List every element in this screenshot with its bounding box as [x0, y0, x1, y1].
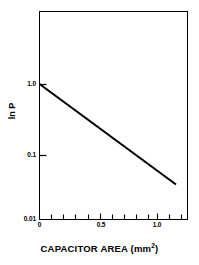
x-axis-title-tail: ) — [155, 243, 158, 254]
x-axis-ticks — [40, 214, 182, 220]
chart-figure: 1.0 0.1 0.01 0 0.5 1.0 ln P CAPACITOR AR… — [0, 0, 199, 265]
y-tick-label-1: 1.0 — [14, 80, 36, 87]
x-tick-label-3: 1.0 — [148, 221, 166, 228]
y-axis-ticks — [40, 85, 47, 156]
x-tick-label-2: 0.5 — [92, 221, 110, 228]
data-series-line — [40, 84, 177, 185]
y-axis-title: ln P — [7, 91, 17, 131]
x-axis-title: CAPACITOR AREA (mm2) — [0, 243, 199, 254]
x-axis-title-base: CAPACITOR AREA (mm — [41, 243, 152, 254]
y-tick-label-2: 0.1 — [14, 151, 36, 158]
x-tick-label-1: 0 — [33, 221, 46, 228]
